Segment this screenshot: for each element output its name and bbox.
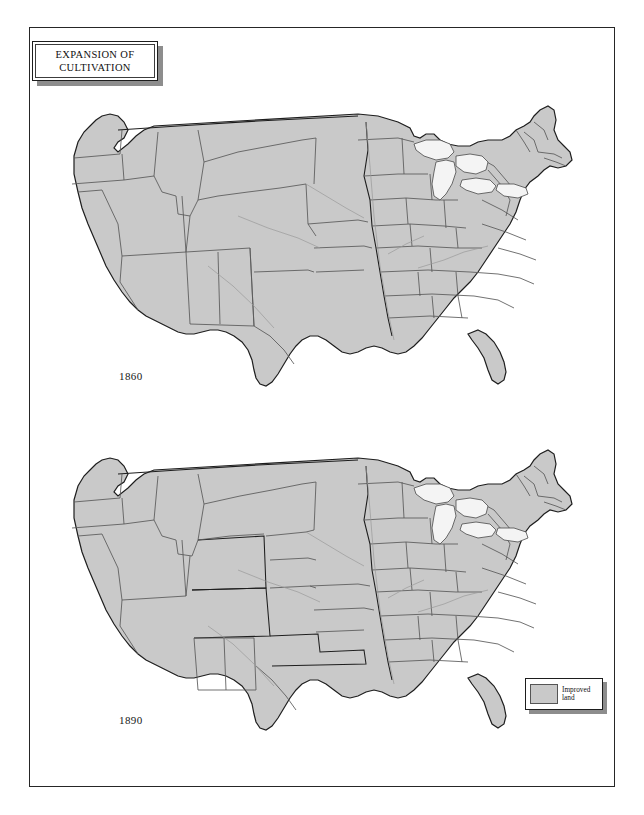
year-label-1890: 1890 [119, 714, 143, 726]
title-line-2: CULTIVATION [59, 61, 131, 74]
title-inner-frame: EXPANSION OF CULTIVATION [35, 44, 155, 78]
land-mass-1890 [74, 450, 572, 730]
title-box: EXPANSION OF CULTIVATION [32, 41, 158, 81]
legend-label: Improved land [562, 686, 590, 703]
year-label-1860: 1860 [119, 370, 143, 382]
legend-swatch-improved-land [530, 684, 558, 704]
florida-1860 [468, 330, 506, 384]
florida-1890 [468, 674, 506, 728]
map-1860-svg [58, 96, 588, 396]
title-line-1: EXPANSION OF [56, 48, 135, 61]
land-mass-1860 [74, 106, 572, 386]
map-1890-svg [58, 440, 588, 740]
map-1860 [58, 96, 588, 396]
page-canvas: EXPANSION OF CULTIVATION [0, 0, 644, 815]
map-1890 [58, 440, 588, 740]
legend-label-line-2: land [562, 694, 590, 702]
legend-box: Improved land [525, 678, 603, 710]
